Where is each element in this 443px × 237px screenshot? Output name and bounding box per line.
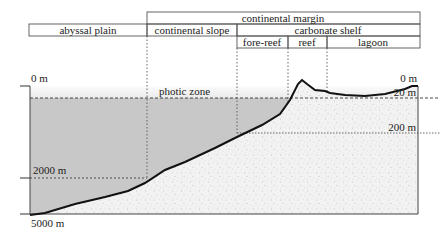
fore-reef-label: fore-reef bbox=[243, 36, 282, 48]
carbonate-platform-diagram: continental margin abyssal plain contine… bbox=[0, 0, 443, 237]
depth-200m-label: 200 m bbox=[388, 121, 416, 133]
lagoon-label: lagoon bbox=[358, 36, 388, 48]
photic-zone-label: photic zone bbox=[159, 85, 210, 97]
depth-5000m-label: 5000 m bbox=[31, 217, 65, 229]
depth-0m-left-label: 0 m bbox=[31, 72, 48, 84]
continental-margin-label: continental margin bbox=[242, 12, 325, 24]
carbonate-shelf-label: carbonate shelf bbox=[295, 24, 362, 36]
reef-label: reef bbox=[298, 36, 315, 48]
depth-0m-right-label: 0 m bbox=[400, 72, 417, 84]
abyssal-plain-label: abyssal plain bbox=[59, 24, 117, 36]
continental-slope-label: continental slope bbox=[155, 24, 230, 36]
depth-2000m-label: 2000 m bbox=[33, 164, 67, 176]
depth-20m-label: 20 m bbox=[394, 86, 417, 98]
